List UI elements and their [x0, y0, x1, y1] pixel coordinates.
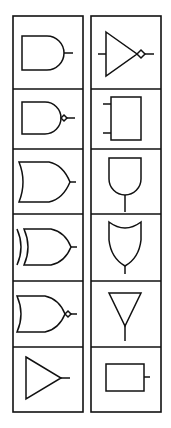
gate-palette [0, 0, 171, 428]
palette-cell-or-gate[interactable] [13, 149, 83, 214]
buffer-gate-icon [13, 347, 83, 412]
palette-cell-nand-gate[interactable] [13, 89, 83, 149]
or-gate-icon [13, 149, 83, 214]
palette-cell-not-gate[interactable] [91, 16, 161, 89]
nand-gate-icon [13, 89, 83, 149]
and-gate-vertical-icon [91, 149, 161, 214]
palette-cell-block-one-output[interactable] [91, 347, 161, 412]
block-one-output-icon [91, 347, 161, 412]
palette-cell-buffer-gate-vertical[interactable] [91, 281, 161, 347]
palette-cell-buffer-gate[interactable] [13, 347, 83, 412]
xor-gate-icon [13, 214, 83, 281]
nor-gate-icon [13, 281, 83, 347]
not-gate-icon [91, 16, 161, 89]
or-gate-vertical-icon [91, 214, 161, 281]
palette-cell-block-two-input[interactable] [91, 89, 161, 149]
palette-cell-xor-gate[interactable] [13, 214, 83, 281]
palette-cell-nor-gate[interactable] [13, 281, 83, 347]
buffer-gate-vertical-icon [91, 281, 161, 347]
palette-cell-and-gate-vertical[interactable] [91, 149, 161, 214]
block-two-input-icon [91, 89, 161, 149]
palette-cell-and-gate[interactable] [13, 16, 83, 89]
and-gate-icon [13, 16, 83, 89]
palette-cell-or-gate-vertical[interactable] [91, 214, 161, 281]
